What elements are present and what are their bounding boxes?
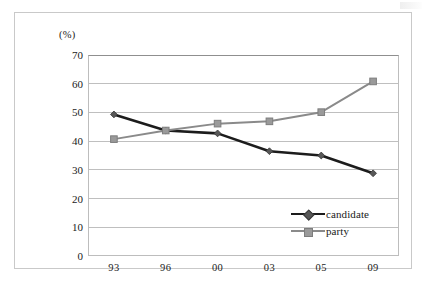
- x-tick-label-09: 09: [353, 262, 393, 274]
- legend-label-party: party: [326, 225, 349, 237]
- legend-item-party: party: [291, 222, 369, 239]
- chart-figure-frame: (%) 010203040506070 candidateparty 93960…: [14, 12, 412, 269]
- y-axis-tick-labels: 010203040506070: [51, 55, 83, 256]
- datapoint-candidate-03: [266, 148, 273, 155]
- series-party: [111, 78, 377, 142]
- datapoint-candidate-05: [318, 152, 325, 159]
- series-line-party: [114, 81, 373, 139]
- y-tick-label-60: 60: [57, 79, 83, 90]
- datapoint-candidate-93: [111, 111, 118, 118]
- y-tick-label-50: 50: [57, 107, 83, 118]
- legend-swatch-party: [291, 225, 325, 237]
- x-tick-label-00: 00: [198, 262, 238, 274]
- x-tick-label-05: 05: [301, 262, 341, 274]
- datapoint-party-09: [370, 78, 377, 85]
- y-tick-label-30: 30: [57, 165, 83, 176]
- legend-marker-diamond-icon: [303, 209, 314, 220]
- datapoint-party-96: [162, 127, 169, 134]
- series-candidate: [111, 111, 377, 177]
- legend-swatch-candidate: [291, 208, 325, 220]
- chart-legend: candidateparty: [291, 205, 369, 239]
- plot-area: candidateparty: [88, 55, 399, 256]
- x-tick-label-93: 93: [94, 262, 134, 274]
- y-tick-label-0: 0: [57, 251, 83, 262]
- datapoint-party-00: [214, 120, 221, 127]
- legend-label-candidate: candidate: [326, 208, 369, 220]
- x-axis-tick-labels: 939600030509: [88, 262, 399, 278]
- y-axis-unit-label: (%): [59, 29, 75, 40]
- legend-marker-square-icon: [304, 228, 313, 237]
- datapoint-party-05: [318, 109, 325, 116]
- x-tick-label-03: 03: [249, 262, 289, 274]
- datapoint-party-93: [111, 136, 118, 143]
- y-tick-label-40: 40: [57, 136, 83, 147]
- datapoint-candidate-00: [214, 130, 221, 137]
- datapoint-party-03: [266, 118, 273, 125]
- y-tick-label-70: 70: [57, 50, 83, 61]
- scan-artifact: [400, 2, 422, 9]
- y-tick-label-20: 20: [57, 194, 83, 205]
- datapoint-candidate-09: [370, 170, 377, 177]
- x-tick-label-96: 96: [146, 262, 186, 274]
- legend-item-candidate: candidate: [291, 205, 369, 222]
- y-tick-label-10: 10: [57, 222, 83, 233]
